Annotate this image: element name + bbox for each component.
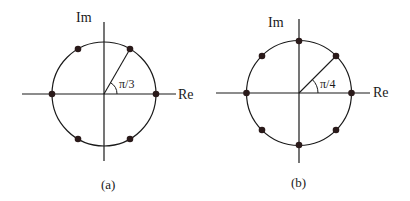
panel-caption: (a) — [101, 177, 115, 192]
root-point — [75, 136, 82, 143]
roots-of-unity-figure: Im Re π/3 (a) Im Re π/4 (b) — [0, 0, 410, 201]
root-point — [333, 53, 340, 60]
root-point — [333, 127, 340, 134]
root-point — [243, 90, 250, 97]
root-point — [153, 91, 160, 98]
real-axis-label: Re — [178, 87, 194, 102]
root-point — [259, 127, 266, 134]
root-point — [296, 38, 303, 45]
angle-arc — [111, 83, 118, 94]
root-point — [348, 90, 355, 97]
root-point — [75, 46, 82, 53]
panel-caption: (b) — [291, 175, 306, 190]
root-point — [127, 136, 134, 143]
root-point — [296, 142, 303, 149]
root-point — [49, 91, 56, 98]
angle-label: π/3 — [119, 77, 134, 91]
imag-axis-label: Im — [76, 10, 92, 25]
root-point — [127, 46, 134, 53]
angle-arc — [312, 80, 318, 93]
imag-axis-label: Im — [268, 15, 284, 30]
panel-a: Im Re π/3 (a) — [22, 10, 194, 192]
real-axis-label: Re — [373, 85, 389, 100]
panel-b: Im Re π/4 (b) — [216, 15, 389, 190]
angle-label: π/4 — [320, 77, 335, 91]
root-point — [259, 53, 266, 60]
